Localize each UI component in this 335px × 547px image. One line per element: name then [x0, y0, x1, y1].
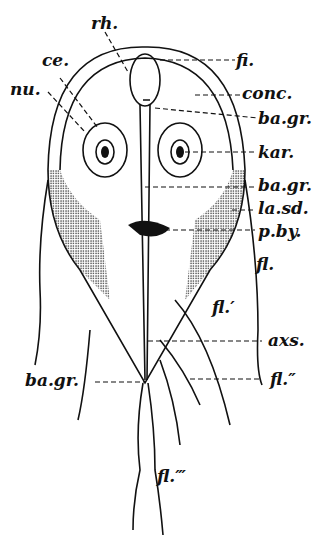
label-fi: fi. [235, 50, 254, 70]
nucleus-right [158, 123, 202, 177]
ventral-disc [130, 54, 160, 106]
label-fl-triple-prime: fl.‴ [156, 466, 186, 486]
label-nu: nu. [10, 79, 41, 99]
label-la-sd: la.sd. [258, 198, 309, 218]
label-p-by: p.by. [258, 221, 302, 241]
giardia-diagram: rh. ce. nu. fi. conc. ba.gr. kar. ba.gr.… [0, 0, 335, 547]
parabasal-body [128, 221, 170, 237]
label-fl-prime: fl.′ [211, 297, 235, 317]
label-ba-gr-mid: ba.gr. [258, 175, 312, 195]
label-axs: axs. [268, 330, 305, 350]
label-fl-double-prime: fl.″ [269, 369, 296, 389]
label-rh: rh. [91, 13, 118, 33]
label-conc: conc. [242, 83, 292, 103]
label-ba-gr-top: ba.gr. [258, 108, 312, 128]
nucleus-left [83, 123, 127, 177]
axostyle [140, 100, 150, 380]
cell-body [48, 47, 245, 383]
label-ba-gr-bottom: ba.gr. [25, 370, 79, 390]
label-kar: kar. [258, 142, 294, 162]
label-ce: ce. [42, 50, 69, 70]
label-fl: fl. [255, 254, 274, 274]
